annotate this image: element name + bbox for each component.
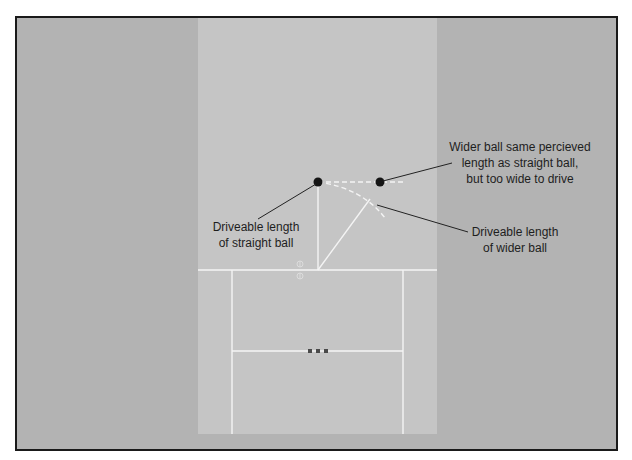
- label-line: but too wide to drive: [440, 171, 600, 187]
- label-line: length as straight ball,: [440, 155, 600, 171]
- label-line: of straight ball: [196, 235, 316, 251]
- label-line: Driveable length: [196, 219, 316, 235]
- label-line: Wider ball same percieved: [440, 139, 600, 155]
- wide-ball-icon: [376, 178, 385, 187]
- label-wide-ball-same-length: Wider ball same percieved length as stra…: [440, 139, 600, 187]
- label-line: of wider ball: [460, 240, 570, 256]
- label-straight-ball: Driveable length of straight ball: [196, 219, 316, 251]
- stumps-icon: [308, 349, 328, 353]
- label-wider-driveable: Driveable length of wider ball: [460, 224, 570, 256]
- label-line: Driveable length: [460, 224, 570, 240]
